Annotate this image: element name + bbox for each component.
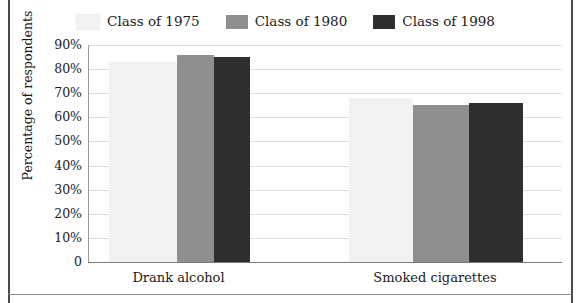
bar-1-0 [349, 98, 413, 262]
y-axis-tick-20%: 20% [38, 208, 82, 221]
legend-item-class-of-1980: Class of 1980 [226, 15, 348, 29]
gridline-90 [89, 45, 562, 46]
y-axis-tick-70%: 70% [38, 87, 82, 100]
chart-legend: Class of 1975 Class of 1980 Class of 199… [0, 14, 571, 30]
plot-area [88, 45, 562, 262]
y-axis-tick-90%: 90% [38, 39, 82, 52]
bar-1-2 [469, 103, 523, 262]
bar-0-0 [109, 62, 177, 262]
figure-bar-chart: Class of 1975 Class of 1980 Class of 199… [0, 0, 587, 303]
legend-item-class-of-1998: Class of 1998 [373, 15, 495, 29]
legend-label-class-of-1998: Class of 1998 [402, 15, 495, 29]
y-axis-tick-40%: 40% [38, 159, 82, 172]
legend-label-class-of-1975: Class of 1975 [107, 15, 200, 29]
legend-item-class-of-1975: Class of 1975 [76, 14, 200, 30]
x-axis-line [88, 262, 562, 263]
figure-left-rule [8, 0, 10, 303]
x-axis-category-label-1: Smoked cigarettes [325, 270, 545, 285]
y-axis-tick-60%: 60% [38, 111, 82, 124]
x-axis-category-label-0: Drank alcohol [69, 270, 289, 285]
bar-1-1 [413, 105, 469, 262]
y-axis-tick-labels: 90%80%70%60%50%40%30%20%10%0 [36, 45, 82, 262]
figure-bottom-rule [8, 294, 572, 295]
legend-swatch-class-of-1980 [226, 15, 248, 29]
figure-right-rule [571, 0, 573, 303]
legend-swatch-class-of-1998 [373, 15, 395, 29]
bar-0-1 [177, 55, 214, 262]
y-axis-tick-10%: 10% [38, 232, 82, 245]
legend-label-class-of-1980: Class of 1980 [255, 15, 348, 29]
bar-0-2 [214, 57, 250, 262]
y-axis-tick-80%: 80% [38, 63, 82, 76]
y-axis-tick-30%: 30% [38, 183, 82, 196]
y-axis-tick-0: 0 [38, 256, 82, 269]
legend-swatch-class-of-1975 [76, 14, 100, 30]
y-axis-title: Percentage of respondents [20, 0, 35, 206]
y-axis-tick-50%: 50% [38, 135, 82, 148]
